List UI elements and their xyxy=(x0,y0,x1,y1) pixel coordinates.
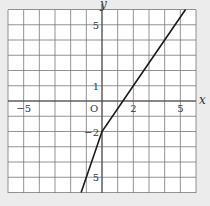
y-tick-label: −2 xyxy=(84,127,99,138)
x-tick-label: 5 xyxy=(177,103,183,114)
y-axis-label: y xyxy=(99,0,107,11)
origin-label: O xyxy=(90,103,98,114)
x-tick-label: −5 xyxy=(16,103,31,114)
y-tick-label: 5 xyxy=(93,172,99,183)
coordinate-plane: −52551−25 x y O xyxy=(0,0,210,206)
x-tick-label: 2 xyxy=(130,103,136,114)
x-axis-label: x xyxy=(199,93,206,107)
y-tick-label: 5 xyxy=(93,20,99,31)
y-tick-label: 1 xyxy=(93,81,99,92)
